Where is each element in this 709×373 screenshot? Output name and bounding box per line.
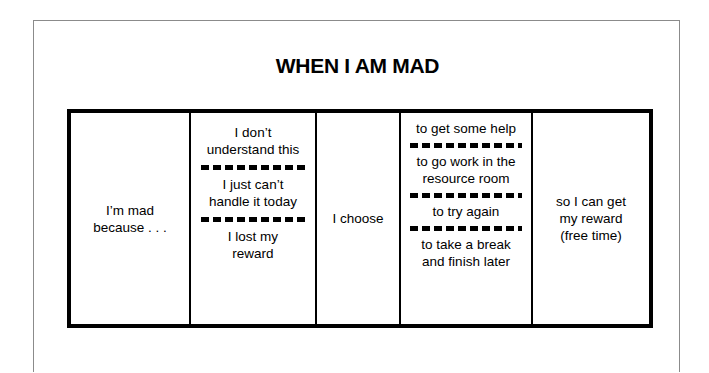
worksheet-page: WHEN I AM MAD I’m mad because . . . I do…: [33, 20, 680, 372]
action-option-2[interactable]: to go work in the resource room: [405, 153, 527, 187]
action-option-4[interactable]: to take a break and finish later: [405, 236, 527, 270]
dashed-separator-icon: [410, 143, 522, 148]
page-title: WHEN I AM MAD: [34, 54, 681, 78]
dashed-separator-icon: [201, 165, 305, 170]
column-choice-connector[interactable]: I choose: [317, 113, 401, 324]
strategy-strip: I’m mad because . . . I don’t understand…: [67, 109, 653, 328]
dashed-separator-icon: [201, 217, 305, 222]
dashed-separator-icon: [410, 193, 522, 198]
feeling-option-1[interactable]: I don’t understand this: [195, 124, 311, 158]
action-option-1[interactable]: to get some help: [405, 120, 527, 137]
trigger-statement-text: I’m mad because . . .: [93, 202, 167, 236]
column-feeling-options[interactable]: I don’t understand this I just can’t han…: [191, 113, 317, 324]
column-action-options[interactable]: to get some help to go work in the resou…: [401, 113, 533, 324]
dashed-separator-icon: [410, 226, 522, 231]
reward-outcome-text: so I can get my reward (free time): [556, 193, 626, 244]
feeling-option-2[interactable]: I just can’t handle it today: [195, 176, 311, 210]
column-reward-outcome[interactable]: so I can get my reward (free time): [533, 113, 649, 324]
feeling-option-3[interactable]: I lost my reward: [195, 228, 311, 262]
action-option-3[interactable]: to try again: [405, 203, 527, 220]
column-trigger-statement[interactable]: I’m mad because . . .: [71, 113, 191, 324]
choice-connector-text: I choose: [332, 210, 383, 227]
